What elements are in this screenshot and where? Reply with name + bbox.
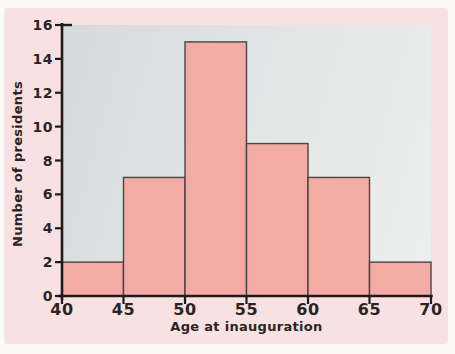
x-tick-label: 45	[112, 300, 135, 319]
y-tick-label: 14	[19, 51, 53, 67]
y-tick-label: 16	[19, 17, 53, 33]
histogram-bar	[308, 177, 370, 296]
histogram-bar	[185, 42, 247, 296]
x-tick-label: 55	[235, 300, 258, 319]
x-axis-title: Age at inauguration	[62, 319, 431, 334]
y-axis-title: Number of presidents	[10, 81, 25, 247]
x-tick-label: 70	[419, 300, 442, 319]
histogram-bar	[247, 144, 309, 296]
x-tick-label: 40	[50, 300, 73, 319]
x-tick-label: 60	[296, 300, 319, 319]
y-tick-label: 0	[19, 288, 53, 304]
x-tick-label: 65	[358, 300, 381, 319]
histogram-bar	[124, 177, 186, 296]
histogram-bar	[370, 262, 432, 296]
histogram-bar	[62, 262, 124, 296]
x-tick-label: 50	[173, 300, 196, 319]
y-tick-label: 2	[19, 254, 53, 270]
figure-page: 0246810121416 40455055606570 Number of p…	[0, 0, 455, 354]
